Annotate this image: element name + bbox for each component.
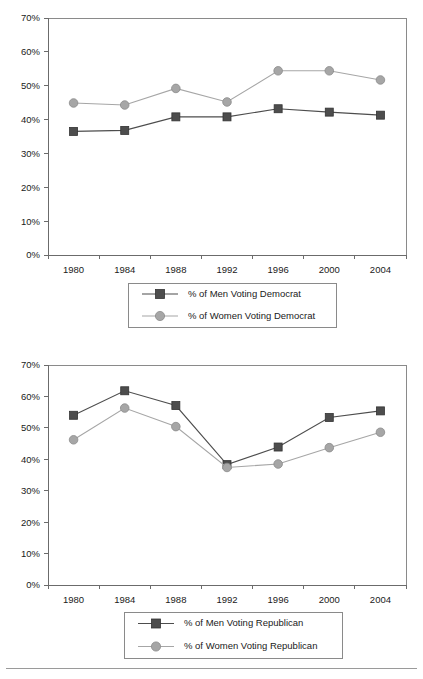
x-axis-tick-label: 1980 xyxy=(63,594,84,605)
data-point-marker xyxy=(223,113,231,121)
data-point-marker xyxy=(120,101,129,110)
x-axis-tick-label: 1984 xyxy=(114,264,135,275)
data-point-marker xyxy=(376,407,384,415)
data-point-marker xyxy=(172,402,180,410)
y-axis-tick-label: 60% xyxy=(21,391,41,402)
legend-entry-label: % of Men Voting Republican xyxy=(184,617,303,628)
data-point-marker xyxy=(70,411,78,419)
y-axis-tick-label: 20% xyxy=(21,182,41,193)
y-axis-tick-label: 50% xyxy=(21,422,41,433)
plot-area-republican: 0%10%20%30%40%50%60%70%19801984198819921… xyxy=(21,359,406,658)
y-axis-tick-label: 70% xyxy=(21,12,41,23)
data-point-marker xyxy=(121,387,129,395)
data-point-marker xyxy=(223,98,232,107)
data-point-marker xyxy=(172,84,181,93)
y-axis-tick-label: 40% xyxy=(21,454,41,465)
footer-divider xyxy=(6,668,417,669)
legend-swatch-marker xyxy=(155,311,164,320)
data-point-marker xyxy=(70,127,78,135)
x-axis-tick-label: 1996 xyxy=(268,264,289,275)
y-axis-tick-label: 50% xyxy=(21,80,41,91)
data-point-marker xyxy=(172,422,181,431)
data-point-marker xyxy=(172,113,180,121)
y-axis-tick-label: 70% xyxy=(21,359,41,370)
data-point-marker xyxy=(223,463,232,472)
x-axis-tick-label: 2004 xyxy=(370,264,391,275)
legend-swatch-marker xyxy=(156,290,165,299)
data-point-marker xyxy=(69,436,78,445)
data-point-marker xyxy=(274,105,282,113)
data-point-marker xyxy=(325,67,334,76)
y-axis-tick-label: 60% xyxy=(21,46,41,57)
democrat-vote-share-chart: 0%10%20%30%40%50%60%70%19801984198819921… xyxy=(0,0,423,335)
x-axis-tick-label: 1992 xyxy=(216,594,237,605)
series-line xyxy=(74,391,381,465)
y-axis-tick-label: 10% xyxy=(21,216,41,227)
x-axis-tick-label: 2000 xyxy=(319,264,340,275)
data-point-marker xyxy=(121,126,129,134)
data-point-marker xyxy=(274,443,282,451)
x-axis-tick-label: 1996 xyxy=(268,594,289,605)
plot-area-democrat: 0%10%20%30%40%50%60%70%19801984198819921… xyxy=(21,12,406,327)
data-point-marker xyxy=(325,413,333,421)
legend-entry-label: % of Women Voting Republican xyxy=(184,640,317,651)
x-axis-tick-label: 1984 xyxy=(114,594,135,605)
x-axis-tick-label: 1988 xyxy=(165,594,186,605)
x-axis-tick-label: 2004 xyxy=(370,594,391,605)
data-point-marker xyxy=(376,76,385,85)
data-point-marker xyxy=(325,108,333,116)
x-axis-tick-label: 1992 xyxy=(216,264,237,275)
x-axis-tick-label: 2000 xyxy=(319,594,340,605)
data-point-marker xyxy=(120,404,129,413)
data-point-marker xyxy=(69,99,78,108)
republican-vote-share-chart: 0%10%20%30%40%50%60%70%19801984198819921… xyxy=(0,340,423,670)
y-axis-tick-label: 30% xyxy=(21,148,41,159)
y-axis-tick-label: 0% xyxy=(26,249,40,260)
data-point-marker xyxy=(376,428,385,437)
y-axis-tick-label: 0% xyxy=(26,579,40,590)
y-axis-tick-label: 10% xyxy=(21,548,41,559)
data-point-marker xyxy=(274,67,283,76)
y-axis-tick-label: 30% xyxy=(21,485,41,496)
data-point-marker xyxy=(325,443,334,452)
data-point-marker xyxy=(274,460,283,469)
legend-entry-label: % of Women Voting Democrat xyxy=(188,310,315,321)
y-axis-tick-label: 40% xyxy=(21,114,41,125)
data-point-marker xyxy=(376,111,384,119)
x-axis-tick-label: 1988 xyxy=(165,264,186,275)
legend-swatch-marker xyxy=(151,642,160,651)
x-axis-tick-label: 1980 xyxy=(63,264,84,275)
legend-entry-label: % of Men Voting Democrat xyxy=(188,288,301,299)
y-axis-tick-label: 20% xyxy=(21,517,41,528)
legend-swatch-marker xyxy=(152,619,161,628)
republican-chart-svg: 0%10%20%30%40%50%60%70%19801984198819921… xyxy=(0,340,423,670)
democrat-chart-svg: 0%10%20%30%40%50%60%70%19801984198819921… xyxy=(0,0,423,335)
